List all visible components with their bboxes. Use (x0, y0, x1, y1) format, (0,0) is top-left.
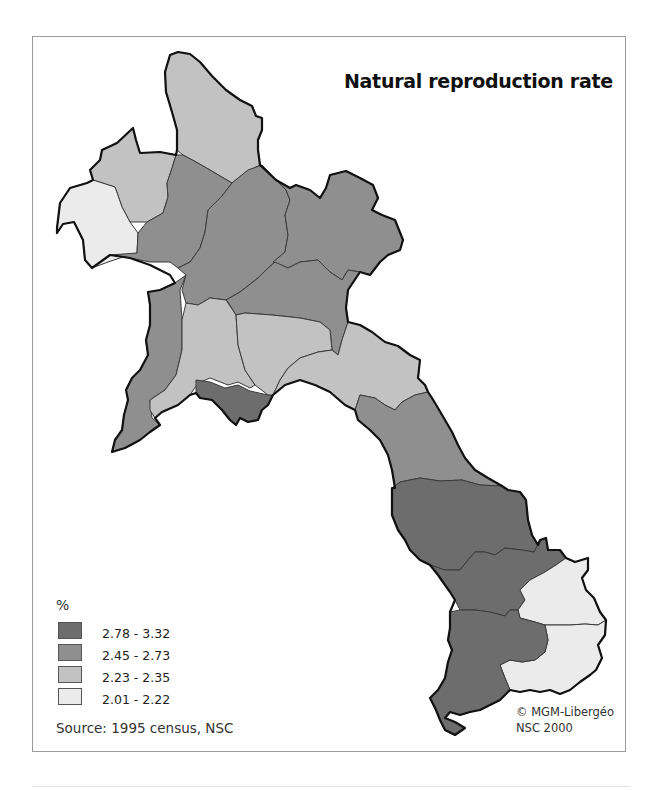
credit-line-1: © MGM-Libergéo (516, 704, 614, 720)
legend-item: 2.01 - 2.22 (56, 688, 69, 710)
legend-swatch (58, 622, 82, 639)
legend-label: 2.78 - 3.32 (102, 626, 170, 642)
legend-swatch (58, 644, 82, 661)
map-title: Natural reproduction rate (344, 70, 613, 92)
credit-line-2: NSC 2000 (516, 720, 614, 736)
legend: % 2.78 - 3.32 2.45 - 2.73 2.23 - 2.35 2.… (56, 596, 69, 710)
copyright-credit: © MGM-Libergéo NSC 2000 (516, 704, 614, 736)
legend-swatch (58, 688, 82, 705)
choropleth-map (0, 0, 664, 790)
source-note: Source: 1995 census, NSC (56, 720, 233, 736)
legend-item: 2.23 - 2.35 (56, 666, 69, 688)
legend-label: 2.45 - 2.73 (102, 648, 170, 664)
legend-swatch (58, 666, 82, 683)
legend-label: 2.23 - 2.35 (102, 670, 170, 686)
legend-label: 2.01 - 2.22 (102, 692, 170, 708)
legend-unit: % (56, 596, 69, 614)
legend-item: 2.78 - 3.32 (56, 622, 69, 644)
legend-item: 2.45 - 2.73 (56, 644, 69, 666)
